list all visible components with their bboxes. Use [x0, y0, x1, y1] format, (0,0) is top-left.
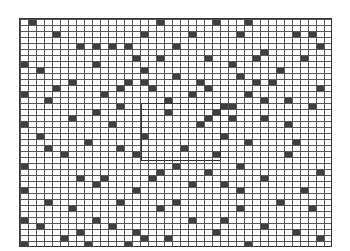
filled-cell[interactable] [213, 152, 220, 157]
filled-cell[interactable] [173, 44, 180, 49]
filled-cell[interactable] [21, 92, 28, 97]
filled-cell[interactable] [93, 218, 100, 223]
filled-cell[interactable] [157, 170, 164, 175]
filled-cell[interactable] [221, 104, 228, 109]
filled-cell[interactable] [285, 98, 292, 103]
filled-cell[interactable] [165, 236, 172, 241]
filled-cell[interactable] [149, 176, 156, 181]
filled-cell[interactable] [117, 86, 124, 91]
filled-cell[interactable] [21, 218, 28, 223]
filled-cell[interactable] [93, 62, 100, 67]
filled-cell[interactable] [253, 80, 260, 85]
filled-cell[interactable] [101, 176, 108, 181]
filled-cell[interactable] [309, 206, 316, 211]
filled-cell[interactable] [197, 80, 204, 85]
filled-cell[interactable] [45, 200, 52, 205]
filled-cell[interactable] [173, 200, 180, 205]
filled-cell[interactable] [133, 56, 140, 61]
filled-cell[interactable] [317, 86, 324, 91]
filled-cell[interactable] [301, 56, 308, 61]
filled-cell[interactable] [37, 224, 44, 229]
filled-cell[interactable] [285, 122, 292, 127]
filled-cell[interactable] [157, 56, 164, 61]
filled-cell[interactable] [109, 122, 116, 127]
filled-cell[interactable] [53, 32, 60, 37]
filled-cell[interactable] [93, 110, 100, 115]
filled-cell[interactable] [277, 68, 284, 73]
filled-cell[interactable] [21, 164, 28, 169]
filled-cell[interactable] [133, 230, 140, 235]
filled-cell[interactable] [117, 146, 124, 151]
filled-cell[interactable] [253, 56, 260, 61]
filled-cell[interactable] [21, 188, 28, 193]
filled-cell[interactable] [229, 104, 236, 109]
filled-cell[interactable] [157, 206, 164, 211]
filled-cell[interactable] [221, 134, 228, 139]
filled-cell[interactable] [189, 32, 196, 37]
filled-cell[interactable] [21, 122, 28, 127]
filled-cell[interactable] [309, 104, 316, 109]
filled-cell[interactable] [205, 170, 212, 175]
filled-cell[interactable] [189, 218, 196, 223]
filled-cell[interactable] [245, 242, 252, 247]
filled-cell[interactable] [213, 230, 220, 235]
filled-cell[interactable] [237, 74, 244, 79]
filled-cell[interactable] [125, 242, 132, 247]
filled-cell[interactable] [237, 164, 244, 169]
filled-cell[interactable] [61, 236, 68, 241]
filled-cell[interactable] [317, 236, 324, 241]
filled-cell[interactable] [261, 50, 268, 55]
filled-cell[interactable] [69, 116, 76, 121]
filled-cell[interactable] [29, 20, 36, 25]
filled-cell[interactable] [197, 122, 204, 127]
filled-cell[interactable] [317, 170, 324, 175]
filled-cell[interactable] [261, 224, 268, 229]
filled-cell[interactable] [213, 20, 220, 25]
filled-cell[interactable] [157, 20, 164, 25]
filled-cell[interactable] [293, 140, 300, 145]
filled-cell[interactable] [277, 200, 284, 205]
filled-cell[interactable] [45, 98, 52, 103]
filled-cell[interactable] [133, 188, 140, 193]
filled-cell[interactable] [205, 56, 212, 61]
filled-cell[interactable] [141, 236, 148, 241]
filled-cell[interactable] [69, 206, 76, 211]
filled-cell[interactable] [261, 116, 268, 121]
filled-cell[interactable] [205, 86, 212, 91]
filled-cell[interactable] [141, 134, 148, 139]
filled-cell[interactable] [301, 188, 308, 193]
filled-cell[interactable] [221, 182, 228, 187]
filled-cell[interactable] [165, 98, 172, 103]
filled-cell[interactable] [237, 206, 244, 211]
filled-cell[interactable] [181, 146, 188, 151]
filled-cell[interactable] [285, 152, 292, 157]
filled-cell[interactable] [173, 164, 180, 169]
filled-cell[interactable] [53, 86, 60, 91]
filled-cell[interactable] [61, 152, 68, 157]
filled-cell[interactable] [77, 44, 84, 49]
filled-cell[interactable] [261, 98, 268, 103]
filled-cell[interactable] [37, 68, 44, 73]
filled-cell[interactable] [269, 80, 276, 85]
filled-cell[interactable] [45, 146, 52, 151]
filled-cell[interactable] [293, 230, 300, 235]
filled-cell[interactable] [133, 152, 140, 157]
filled-cell[interactable] [245, 20, 252, 25]
filled-cell[interactable] [165, 110, 172, 115]
filled-cell[interactable] [229, 62, 236, 67]
filled-cell[interactable] [69, 80, 76, 85]
filled-cell[interactable] [293, 32, 300, 37]
filled-cell[interactable] [93, 44, 100, 49]
filled-cell[interactable] [229, 116, 236, 121]
filled-cell[interactable] [205, 116, 212, 121]
filled-cell[interactable] [237, 32, 244, 37]
filled-cell[interactable] [213, 110, 220, 115]
filled-cell[interactable] [173, 74, 180, 79]
filled-cell[interactable] [125, 44, 132, 49]
filled-cell[interactable] [93, 182, 100, 187]
filled-cell[interactable] [125, 80, 132, 85]
game-board-grid[interactable] [19, 18, 332, 247]
filled-cell[interactable] [221, 218, 228, 223]
filled-cell[interactable] [245, 140, 252, 145]
filled-cell[interactable] [117, 200, 124, 205]
